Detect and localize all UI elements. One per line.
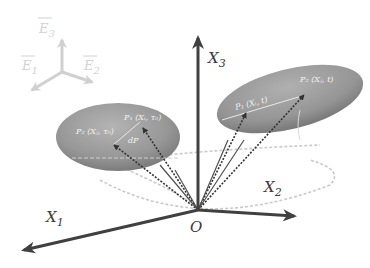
right-p2-label: P₂ (Xⱼ, t) — [299, 75, 333, 84]
x1-label: X1 — [45, 208, 64, 229]
right-p1-vector — [198, 113, 246, 210]
x2-label: X2 — [263, 178, 282, 199]
x2-axis-arrow-icon — [198, 210, 294, 216]
x3-label: X3 — [207, 49, 226, 70]
dp-label: dP — [128, 136, 139, 145]
origin-label: O — [190, 218, 202, 236]
reference-frame: E3 E1 E2 — [21, 18, 100, 90]
deformation-diagram: E3 E1 E2 P₁ (Xᵢ, τ₀) P₂ (Xⱼ, τ₀) dP P₁ (… — [0, 0, 370, 268]
left-p1-label: P₁ (Xᵢ, τ₀) — [123, 113, 161, 122]
right-body: P₁ (Xᵢ, t) P₂ (Xⱼ, t) — [198, 52, 370, 210]
e3-label: E3 — [38, 21, 55, 39]
right-body-shape — [210, 52, 370, 147]
e2-arrow-icon — [62, 72, 92, 82]
left-p2-label: P₂ (Xⱼ, τ₀) — [75, 127, 114, 136]
e1-label: E1 — [21, 58, 38, 76]
e2-label: E2 — [83, 58, 100, 76]
